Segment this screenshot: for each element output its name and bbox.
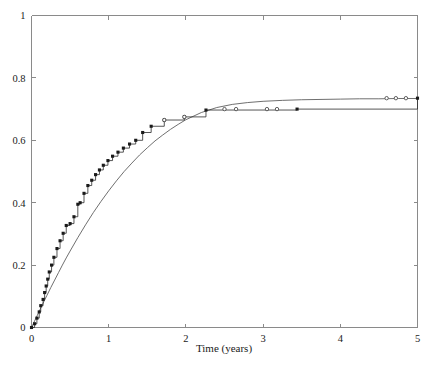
x-axis-ticks (32, 16, 418, 328)
event-marker (50, 264, 53, 267)
event-marker (416, 97, 419, 100)
smooth-fit-curve (32, 98, 418, 327)
event-marker (204, 108, 207, 111)
x-tick-label: 0 (29, 333, 34, 344)
event-marker (134, 139, 137, 142)
event-marker (86, 184, 89, 187)
event-marker (35, 317, 38, 320)
event-marker (38, 310, 41, 313)
event-marker (150, 125, 153, 128)
plot-frame (32, 16, 418, 328)
event-marker (65, 224, 68, 227)
event-marker (30, 326, 33, 329)
event-marker (39, 304, 42, 307)
event-marker (46, 278, 49, 281)
censored-marker (394, 96, 397, 99)
event-marker (72, 215, 75, 218)
event-marker (79, 201, 82, 204)
event-marker (82, 192, 85, 195)
event-marker (102, 164, 105, 167)
y-axis-tick-labels: 00.20.40.60.81 (12, 10, 26, 333)
chart-canvas: 012345 00.20.40.60.81 Time (years) (0, 0, 435, 370)
y-tick-label: 1 (20, 10, 25, 21)
y-tick-label: 0.6 (12, 135, 25, 146)
event-marker (45, 284, 48, 287)
y-tick-label: 0 (20, 322, 25, 333)
censored-marker (385, 96, 388, 99)
event-marker (33, 322, 36, 325)
x-tick-label: 5 (415, 333, 420, 344)
event-marker (59, 239, 62, 242)
event-marker (122, 147, 125, 150)
axis-frame (32, 16, 418, 328)
chart-figure: 012345 00.20.40.60.81 Time (years) (0, 0, 435, 370)
event-marker-group (30, 97, 419, 329)
censored-marker (223, 107, 226, 110)
event-marker (94, 173, 97, 176)
event-marker (90, 179, 93, 182)
event-marker (296, 108, 299, 111)
event-marker (48, 270, 51, 273)
x-tick-label: 3 (260, 333, 265, 344)
event-marker (62, 232, 65, 235)
censored-marker (404, 96, 407, 99)
kaplan-meier-step-curve (32, 98, 418, 327)
event-marker (69, 222, 72, 225)
censored-marker (275, 107, 278, 110)
censored-marker (265, 107, 268, 110)
censored-marker (163, 118, 166, 121)
event-marker (141, 131, 144, 134)
y-tick-label: 0.2 (12, 260, 25, 271)
x-tick-label: 4 (338, 333, 344, 344)
event-marker (111, 155, 114, 158)
y-tick-label: 0.8 (12, 73, 25, 84)
censored-marker (234, 107, 237, 110)
event-marker (43, 291, 46, 294)
x-tick-label: 2 (183, 333, 188, 344)
event-marker (106, 159, 109, 162)
x-tick-label: 1 (106, 333, 111, 344)
event-marker (128, 142, 131, 145)
event-marker (55, 247, 58, 250)
event-marker (52, 256, 55, 259)
y-axis-ticks (32, 16, 418, 328)
event-marker (116, 151, 119, 154)
event-marker (42, 298, 45, 301)
event-marker (98, 168, 101, 171)
y-tick-label: 0.4 (12, 198, 26, 209)
censored-marker (183, 115, 186, 118)
x-axis-title: Time (years) (196, 342, 252, 355)
